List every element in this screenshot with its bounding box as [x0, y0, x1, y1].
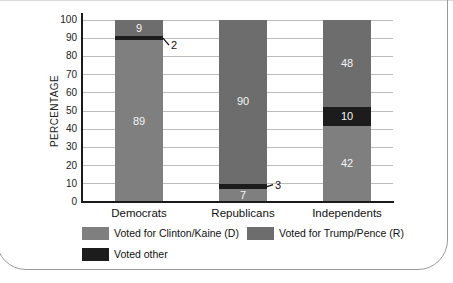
- x-category-label: Republicans: [193, 207, 293, 220]
- bar-value-label: 89: [115, 115, 163, 128]
- y-tick-label: 10: [51, 178, 77, 190]
- x-category-label: Democrats: [89, 207, 189, 220]
- legend-swatch: [82, 248, 109, 261]
- bar-segment: [219, 184, 267, 189]
- x-axis-line: [81, 201, 394, 203]
- bar-value-label: 9: [115, 22, 163, 35]
- bar-segment: [115, 36, 163, 40]
- y-tick-label: 50: [51, 105, 77, 117]
- legend-label: Voted for Clinton/Kaine (D): [114, 227, 239, 240]
- callout-line: [267, 185, 273, 187]
- y-tick-label: 70: [51, 69, 77, 81]
- page-edge-line: [0, 0, 453, 1]
- bar-value-label: 90: [219, 95, 267, 108]
- y-tick-label: 90: [51, 32, 77, 44]
- y-tick-label: 60: [51, 87, 77, 99]
- legend-label: Voted other: [114, 248, 168, 261]
- legend-label: Voted for Trump/Pence (R): [279, 227, 404, 240]
- y-axis-line: [81, 13, 83, 203]
- figure: 899790421048 PERCENTAGE 0102030405060708…: [0, 0, 453, 283]
- legend-swatch: [82, 227, 109, 240]
- y-tick-label: 0: [51, 196, 77, 208]
- bar-value-label: 48: [323, 57, 371, 70]
- legend-swatch: [247, 227, 274, 240]
- bar-value-callout-label: 2: [171, 39, 177, 51]
- callout-line: [163, 38, 169, 45]
- y-tick-label: 20: [51, 160, 77, 172]
- y-tick-label: 40: [51, 123, 77, 135]
- bar-value-callout-label: 3: [275, 179, 281, 191]
- bar-value-label: 42: [323, 157, 371, 170]
- bar-value-label: 10: [323, 110, 371, 123]
- y-tick-label: 100: [51, 14, 77, 26]
- x-category-label: Independents: [297, 207, 397, 220]
- y-tick-label: 30: [51, 141, 77, 153]
- y-tick-label: 80: [51, 50, 77, 62]
